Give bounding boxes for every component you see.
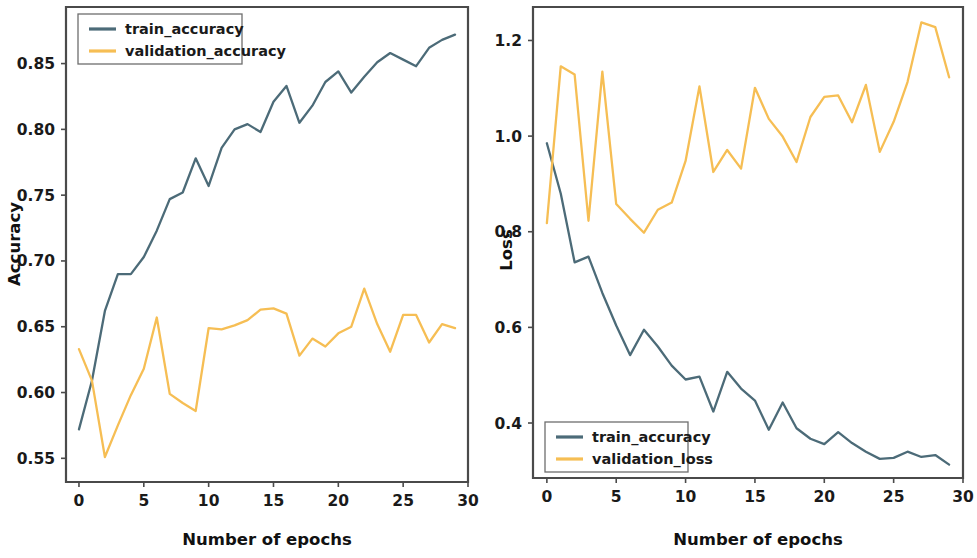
x-axis-title: Number of epochs	[673, 530, 843, 549]
y-tick-label: 0.55	[17, 450, 55, 468]
y-tick-label: 1.0	[495, 128, 523, 146]
x-tick-label: 5	[138, 492, 149, 510]
loss-chart-svg: 051015202530 0.40.60.81.01.2 train_accur…	[490, 0, 977, 558]
data-series-group	[547, 22, 949, 464]
series-line-validation-accuracy	[79, 289, 455, 457]
legend-label[interactable]: train_accuracy	[125, 21, 244, 38]
x-tick-label: 15	[744, 488, 766, 506]
legend[interactable]: train_accuracyvalidation_accuracy	[78, 14, 287, 64]
legend-label[interactable]: validation_loss	[592, 451, 713, 468]
x-tick-label: 0	[541, 488, 552, 506]
x-tick-label: 5	[611, 488, 622, 506]
y-tick-label: 0.4	[495, 415, 523, 433]
series-line-validation-loss	[547, 22, 949, 232]
x-axis-ticks: 051015202530	[541, 478, 974, 506]
series-line-train-accuracy	[547, 143, 949, 464]
x-tick-label: 30	[952, 488, 974, 506]
legend-label[interactable]: train_accuracy	[592, 429, 711, 446]
legend[interactable]: train_accuracyvalidation_loss	[545, 422, 713, 472]
x-tick-label: 15	[263, 492, 285, 510]
y-tick-label: 0.60	[17, 384, 55, 402]
y-tick-label: 0.75	[17, 187, 55, 205]
x-axis-title: Number of epochs	[182, 530, 352, 549]
data-series-group	[79, 35, 455, 457]
accuracy-chart-panel: 051015202530 0.550.600.650.700.750.800.8…	[0, 0, 490, 558]
y-axis-ticks: 0.550.600.650.700.750.800.85	[17, 55, 66, 468]
x-tick-label: 10	[198, 492, 220, 510]
y-axis-title: Accuracy	[5, 202, 24, 286]
y-tick-label: 0.65	[17, 318, 55, 336]
x-axis-ticks: 051015202530	[74, 482, 479, 510]
y-tick-label: 0.80	[17, 121, 55, 139]
x-tick-label: 30	[457, 492, 479, 510]
figure-root: 051015202530 0.550.600.650.700.750.800.8…	[0, 0, 977, 558]
x-tick-label: 20	[814, 488, 836, 506]
axes-frame	[533, 7, 963, 478]
x-tick-label: 25	[392, 492, 414, 510]
loss-chart-panel: 051015202530 0.40.60.81.01.2 train_accur…	[490, 0, 977, 558]
series-line-train-accuracy	[79, 35, 455, 430]
x-tick-label: 25	[883, 488, 905, 506]
y-tick-label: 0.6	[495, 319, 522, 337]
legend-label[interactable]: validation_accuracy	[125, 43, 287, 60]
loss-axes	[533, 7, 963, 478]
accuracy-chart-svg: 051015202530 0.550.600.650.700.750.800.8…	[0, 0, 490, 558]
y-axis-title: Loss	[497, 229, 516, 271]
y-tick-label: 0.85	[17, 55, 55, 73]
x-tick-label: 10	[675, 488, 697, 506]
x-tick-label: 20	[328, 492, 350, 510]
axes-frame	[66, 7, 468, 482]
y-tick-label: 1.2	[495, 32, 522, 50]
x-tick-label: 0	[74, 492, 85, 510]
accuracy-axes	[66, 7, 468, 482]
